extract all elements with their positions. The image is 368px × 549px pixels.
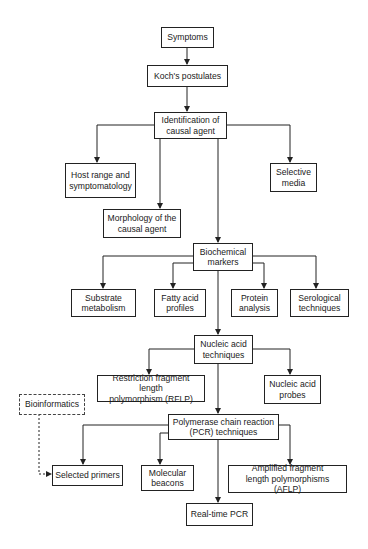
node-label: Symptoms [167, 32, 208, 43]
node-serological-techniques: Serological techniques [290, 289, 349, 317]
node-selected-primers: Selected primers [52, 465, 123, 486]
node-label: Serological techniques [298, 293, 341, 314]
edge-biochemical-substrate [103, 256, 193, 288]
node-label: Molecular beacons [149, 468, 186, 489]
edge-biochemical-serological [252, 256, 316, 288]
edge-bioinformatics-selectedprimers [39, 414, 51, 474]
edge-biochemical-fattyacid [173, 263, 193, 288]
node-label: Substrate metabolism [82, 293, 126, 314]
node-label: Morphology of the causal agent [108, 213, 177, 234]
node-label: Bioinformatics [25, 399, 79, 410]
edge-identification-selectivemedia [226, 125, 290, 162]
node-fatty-acid-profiles: Fatty acid profiles [154, 289, 206, 317]
edge-nucleic-probes [252, 349, 290, 374]
node-label: Nucleic acid probes [269, 379, 315, 400]
node-label: Real-time PCR [191, 509, 248, 520]
node-protein-analysis: Protein analysis [231, 289, 278, 317]
node-host-range: Host range and symptomatology [65, 163, 136, 198]
node-kochs-postulates: Koch's postulates [147, 65, 228, 87]
flowchart-diagnosis-of-causal-agent: Symptoms Koch's postulates Identificatio… [0, 0, 368, 549]
node-bioinformatics: Bioinformatics [19, 394, 85, 415]
node-nucleic-acid-probes: Nucleic acid probes [264, 375, 321, 404]
edge-pcr-selectedprimers [83, 425, 168, 464]
edge-pcr-aflp [278, 425, 290, 464]
node-selective-media: Selective media [270, 163, 317, 192]
node-real-time-pcr: Real-time PCR [186, 503, 253, 526]
node-label: Koch's postulates [154, 71, 221, 82]
node-label: Selected primers [55, 470, 119, 481]
node-label: Fatty acid profiles [161, 293, 198, 314]
node-label: Restriction fragment length polymorphism… [100, 373, 202, 405]
node-morphology: Morphology of the causal agent [103, 209, 181, 238]
edge-nucleic-rflp [149, 349, 194, 374]
node-label: Selective media [276, 167, 311, 188]
node-identification-of-causal-agent: Identification of causal agent [154, 112, 227, 139]
node-label: Amplified fragment length polymorphisms … [231, 463, 344, 495]
node-aflp: Amplified fragment length polymorphisms … [228, 465, 347, 493]
node-biochemical-markers: Biochemical markers [193, 243, 253, 271]
node-label: Protein analysis [239, 293, 270, 314]
node-label: Biochemical markers [200, 247, 246, 268]
node-molecular-beacons: Molecular beacons [141, 465, 194, 491]
node-label: Identification of causal agent [162, 115, 220, 136]
node-substrate-metabolism: Substrate metabolism [71, 289, 136, 317]
edge-identification-hostrange [97, 125, 154, 162]
node-label: Polymerase chain reaction (PCR) techniqu… [173, 417, 274, 438]
node-label: Host range and symptomatology [69, 170, 132, 191]
node-symptoms: Symptoms [161, 27, 214, 48]
edge-pcr-molecularbeacons [160, 433, 168, 464]
node-label: Nucleic acid techniques [200, 339, 246, 360]
edge-biochemical-protein [252, 263, 264, 288]
node-rflp: Restriction fragment length polymorphism… [97, 375, 205, 402]
node-pcr-techniques: Polymerase chain reaction (PCR) techniqu… [168, 414, 279, 440]
node-nucleic-acid-techniques: Nucleic acid techniques [194, 335, 253, 364]
